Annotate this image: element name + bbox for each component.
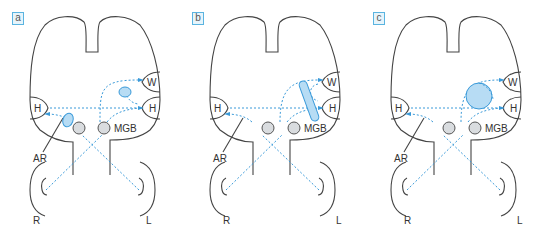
label-w: W xyxy=(147,77,157,88)
svg-text:W: W xyxy=(327,77,337,88)
label-l: L xyxy=(146,215,152,226)
label-ar: AR xyxy=(33,153,47,164)
brain-outline xyxy=(30,17,160,175)
mgb-right xyxy=(98,122,110,134)
lesion-c xyxy=(466,83,492,109)
panel-a: a xyxy=(0,0,180,230)
diagram-b: W H H MGB AR R L xyxy=(180,0,360,230)
diagram-a: W H H MGB AR R L xyxy=(0,0,180,230)
ear-left xyxy=(140,162,155,216)
svg-text:AR: AR xyxy=(213,153,227,164)
svg-text:L: L xyxy=(517,215,523,226)
svg-text:AR: AR xyxy=(394,153,408,164)
svg-text:L: L xyxy=(336,215,342,226)
panel-c: c W H H xyxy=(361,0,541,230)
label-h-right: H xyxy=(149,103,156,114)
panel-b: b W H H xyxy=(180,0,360,230)
label-h-left: H xyxy=(34,103,41,114)
lesion-a2 xyxy=(119,87,131,97)
svg-text:MGB: MGB xyxy=(304,123,327,134)
svg-text:MGB: MGB xyxy=(485,123,508,134)
svg-text:R: R xyxy=(404,215,411,226)
svg-text:H: H xyxy=(214,103,221,114)
label-r: R xyxy=(33,215,40,226)
lesion-b xyxy=(298,80,320,122)
svg-text:H: H xyxy=(329,103,336,114)
mgb-left xyxy=(73,122,85,134)
svg-text:W: W xyxy=(508,77,518,88)
ear-right xyxy=(30,162,45,216)
svg-text:H: H xyxy=(510,103,517,114)
svg-text:H: H xyxy=(395,103,402,114)
diagram-c: W H H MGB AR R L xyxy=(361,0,541,230)
label-mgb: MGB xyxy=(114,123,137,134)
svg-text:R: R xyxy=(223,215,230,226)
